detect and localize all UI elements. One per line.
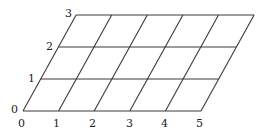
y-label-1: 1: [28, 72, 35, 85]
y-label-3: 3: [65, 7, 72, 20]
slanted-line-5: [201, 15, 254, 111]
x-label-0: 0: [18, 117, 25, 130]
x-label-5: 5: [196, 117, 203, 130]
slanted-line-2: [94, 15, 147, 111]
slanted-line-4: [165, 15, 218, 111]
x-axis-labels: 0 1 2 3 4 5: [18, 117, 203, 130]
x-label-3: 3: [126, 117, 133, 130]
x-label-2: 2: [89, 117, 96, 130]
slanted-line-0: [23, 15, 76, 111]
y-label-2: 2: [46, 40, 53, 53]
slanted-line-3: [130, 15, 183, 111]
y-axis-labels: 0 1 2 3: [11, 7, 72, 116]
slanted-line-1: [59, 15, 112, 111]
x-label-4: 4: [161, 117, 168, 130]
x-label-1: 1: [53, 117, 60, 130]
y-label-0: 0: [11, 103, 18, 116]
grid-lines: [23, 15, 254, 111]
skewed-grid-diagram: 0 1 2 3 4 5 0 1 2 3: [0, 0, 265, 133]
